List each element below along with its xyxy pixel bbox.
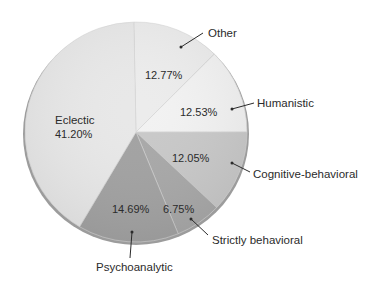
slice-label-eclectic: Eclectic <box>55 114 95 126</box>
slice-value-other: 12.77% <box>145 69 183 81</box>
pie-chart: 12.77% 12.53% 12.05% 6.75% 14.69% Eclect… <box>0 0 370 287</box>
slice-value-humanistic: 12.53% <box>180 106 218 118</box>
callout-strictly: Strictly behavioral <box>190 218 303 247</box>
slice-value-psycho: 14.69% <box>112 203 150 215</box>
slice-value-eclectic: 41.20% <box>55 128 93 140</box>
callout-label-psycho: Psychoanalytic <box>96 261 173 273</box>
callout-label-strictly: Strictly behavioral <box>212 234 303 246</box>
slice-value-strictly: 6.75% <box>163 203 194 215</box>
callout-cognitive: Cognitive-behavioral <box>231 162 358 181</box>
callout-label-cognitive: Cognitive-behavioral <box>253 168 358 180</box>
callout-label-other: Other <box>208 27 237 39</box>
callout-label-humanistic: Humanistic <box>257 97 314 109</box>
slice-value-cognitive: 12.05% <box>172 152 210 164</box>
